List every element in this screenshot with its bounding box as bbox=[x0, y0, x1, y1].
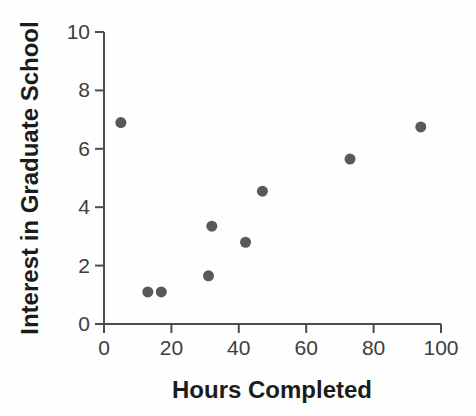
data-point bbox=[115, 117, 126, 128]
y-tick-label: 0 bbox=[78, 312, 90, 335]
x-axis-title: Hours Completed bbox=[172, 376, 372, 404]
data-point bbox=[240, 237, 251, 248]
data-point bbox=[257, 186, 268, 197]
scatter-plot: 0204060801000246810 bbox=[0, 0, 476, 416]
y-tick-label: 2 bbox=[78, 254, 90, 277]
y-tick-label: 6 bbox=[78, 137, 90, 160]
x-tick-label: 20 bbox=[160, 336, 183, 359]
y-tick-label: 4 bbox=[78, 195, 90, 218]
y-tick-label: 8 bbox=[78, 78, 90, 101]
data-point bbox=[345, 154, 356, 165]
x-tick-label: 100 bbox=[423, 336, 458, 359]
data-point bbox=[206, 221, 217, 232]
data-point bbox=[142, 286, 153, 297]
data-point bbox=[156, 286, 167, 297]
x-tick-label: 40 bbox=[227, 336, 250, 359]
x-tick-label: 60 bbox=[295, 336, 318, 359]
x-tick-label: 80 bbox=[362, 336, 385, 359]
scatter-figure: Interest in Graduate School 020406080100… bbox=[0, 0, 476, 416]
data-point bbox=[203, 270, 214, 281]
y-tick-label: 10 bbox=[67, 20, 90, 43]
axis-spine bbox=[104, 32, 441, 324]
x-tick-label: 0 bbox=[98, 336, 110, 359]
data-point bbox=[415, 121, 426, 132]
